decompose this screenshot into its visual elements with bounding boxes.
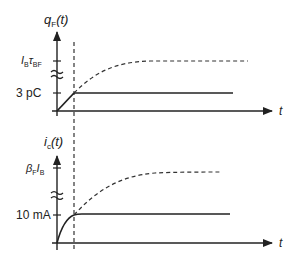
bottom-plot: ic(t) βFIB 10 mA t xyxy=(16,134,283,250)
top-upper-tick-label: IBτBF xyxy=(21,54,42,68)
top-lower-tick-label: 3 pC xyxy=(16,86,42,100)
top-plot: qF(t) IBτBF 3 pC t xyxy=(16,12,283,118)
bottom-dashed-curve xyxy=(74,172,222,215)
bottom-upper-tick-label: βFIB xyxy=(25,162,45,176)
bottom-rise-curve xyxy=(57,215,74,243)
top-ramp-line xyxy=(57,93,74,111)
diagram-root: qF(t) IBτBF 3 pC t ic(t) βFIB 10 mA t xyxy=(0,0,305,266)
diagram-canvas: qF(t) IBτBF 3 pC t ic(t) βFIB 10 mA t xyxy=(0,0,305,266)
top-x-label: t xyxy=(279,104,283,118)
bottom-lower-tick-label: 10 mA xyxy=(16,208,51,222)
bottom-solid-plateau xyxy=(74,214,230,215)
bottom-y-label: ic(t) xyxy=(44,134,63,151)
top-dashed-curve xyxy=(74,61,248,93)
bottom-x-label: t xyxy=(279,236,283,250)
top-y-label: qF(t) xyxy=(44,12,68,29)
